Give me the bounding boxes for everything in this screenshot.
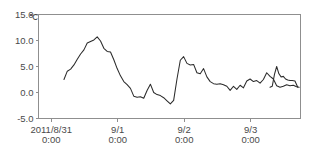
- temperature-chart: ℃ 15.010.05.00.0-5.0 2011/8/310:009/10:0…: [0, 0, 318, 158]
- x-tick-label-time: 0:00: [241, 134, 260, 145]
- y-tick-label: 0.0: [20, 87, 33, 98]
- series-group: [64, 37, 299, 104]
- x-axis-tick-labels: 2011/8/310:009/10:009/20:009/30:00: [30, 124, 259, 145]
- temperature-series-line-tail: [270, 67, 298, 88]
- x-tick-label-time: 0:00: [42, 134, 61, 145]
- y-axis-tick-labels: 15.010.05.00.0-5.0: [15, 9, 34, 124]
- y-tick-label: 15.0: [15, 9, 34, 20]
- y-tick-label: 10.0: [15, 35, 34, 46]
- temperature-series-line: [64, 37, 299, 104]
- y-tick-label: -5.0: [17, 113, 33, 124]
- x-tick-label-time: 0:00: [175, 134, 194, 145]
- chart-canvas: ℃ 15.010.05.00.0-5.0 2011/8/310:009/10:0…: [0, 0, 318, 158]
- x-tick-label-time: 0:00: [108, 134, 127, 145]
- y-tick-label: 5.0: [20, 61, 33, 72]
